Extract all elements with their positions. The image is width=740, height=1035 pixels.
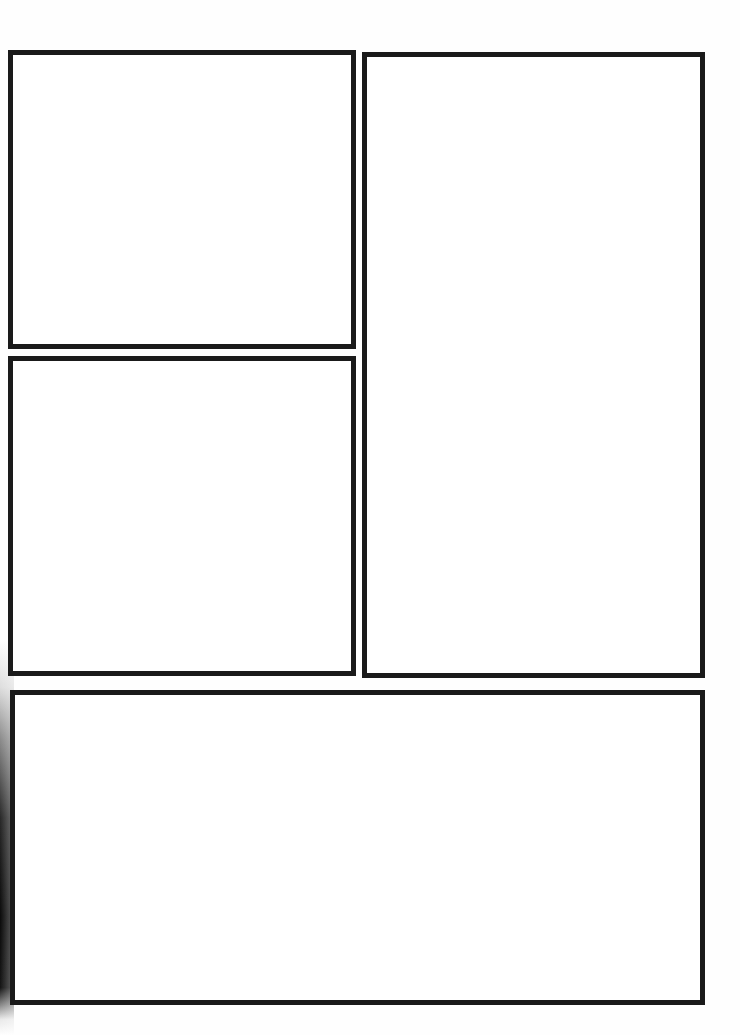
- comic-page: [0, 0, 740, 1035]
- panel-bottom-wide: [10, 690, 705, 1005]
- panel-right-tall: [362, 52, 705, 678]
- panel-middle-left: [8, 356, 356, 676]
- panel-top-left: [8, 50, 356, 349]
